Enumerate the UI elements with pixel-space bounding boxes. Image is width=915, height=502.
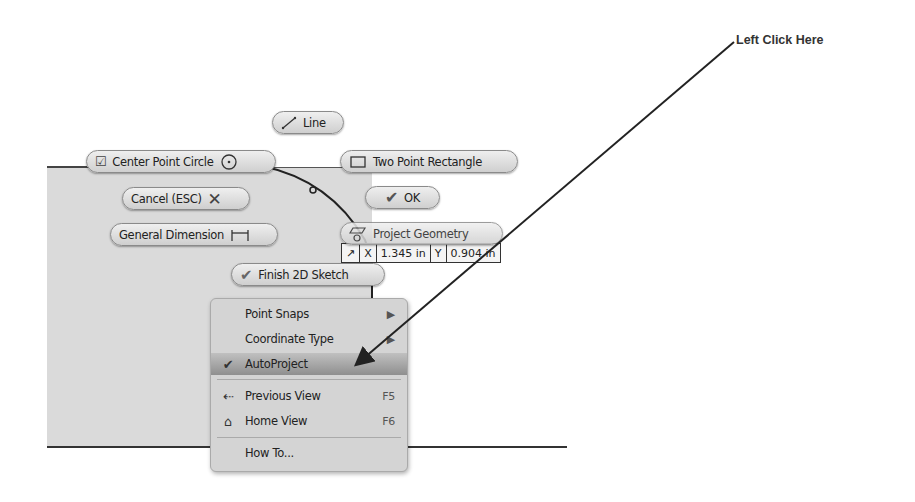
checkbox-icon: ☑ [95,154,106,169]
finish-2d-sketch-button[interactable]: ✔ Finish 2D Sketch [231,263,385,286]
menu-item-autoproject[interactable]: ✔ AutoProject [211,353,407,375]
dimension-icon [230,228,250,242]
menu-item-how-to[interactable]: How To... [211,442,407,464]
center-point-circle-label: Center Point Circle [112,155,213,169]
menu-item-point-snaps[interactable]: Point Snaps ▶ [211,303,407,325]
x-icon: ✕ [208,189,222,209]
check-icon: ✔ [219,357,237,372]
menu-item-previous-view[interactable]: ⇠ Previous View F5 [211,385,407,407]
finish-2d-sketch-label: Finish 2D Sketch [258,268,348,282]
line-button[interactable]: Line [272,111,344,134]
project-geometry-button[interactable]: Project Geometry [340,222,503,245]
menu-separator [217,437,401,438]
center-point-circle-button[interactable]: ☑ Center Point Circle [86,150,276,173]
two-point-rectangle-label: Two Point Rectangle [373,155,482,169]
two-point-rectangle-button[interactable]: Two Point Rectangle [340,150,518,173]
x-value-field[interactable]: 1.345 in [377,244,431,262]
line-label: Line [303,116,326,130]
project-geometry-icon [349,226,367,242]
x-label: X [360,244,377,262]
cancel-label: Cancel (ESC) [131,192,202,206]
menu-item-home-view[interactable]: ⌂ Home View F6 [211,410,407,432]
general-dimension-button[interactable]: General Dimension [110,223,278,246]
home-icon: ⌂ [219,414,237,429]
sketch-top-edge [47,166,87,168]
menu-item-coordinate-type[interactable]: Coordinate Type ▶ [211,328,407,350]
callout-label: Left Click Here [736,33,824,47]
submenu-arrow-icon: ▶ [387,333,395,346]
line-icon [281,116,297,130]
general-dimension-label: General Dimension [119,228,224,242]
coordinate-type-icon[interactable]: ↗ [342,244,360,262]
cancel-button[interactable]: Cancel (ESC) ✕ [122,187,250,210]
project-geometry-label: Project Geometry [373,227,469,241]
rectangle-icon [349,155,367,169]
ok-label: OK [404,191,420,205]
menu-separator [217,379,401,380]
center-point-circle-icon [220,153,238,171]
coordinate-input-bar: ↗ X 1.345 in Y 0.904 in [341,243,501,263]
context-menu: Point Snaps ▶ Coordinate Type ▶ ✔ AutoPr… [210,298,408,472]
ok-button[interactable]: ✔ OK [365,186,440,209]
previous-view-icon: ⇠ [219,389,237,404]
submenu-arrow-icon: ▶ [387,308,395,321]
y-label: Y [431,244,447,262]
checkmark-icon: ✔ [240,266,252,284]
y-value-field[interactable]: 0.904 in [447,244,500,262]
checkmark-icon: ✔ [385,188,398,207]
